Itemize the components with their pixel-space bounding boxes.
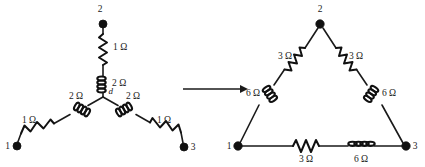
inductor-d1-2ohm: [73, 102, 91, 117]
delta-terminal-3-label: 3: [413, 141, 418, 151]
delta-terminal-1-dot: [234, 142, 242, 150]
inductor-12-6ohm: [262, 85, 278, 103]
wye-label-inductor-d3: 2 Ω: [126, 91, 140, 101]
transformation-arrow: [183, 85, 248, 93]
delta-terminal-2-dot: [316, 20, 324, 28]
delta-label-inductor-13: 6 Ω: [354, 154, 368, 164]
wye-terminal-2-dot: [99, 20, 107, 28]
delta-terminal-2-label: 2: [318, 4, 323, 14]
inductor-13-6ohm: [348, 142, 374, 146]
wye-terminal-1-label: 1: [5, 141, 10, 151]
wire-center-to-right-inductor: [103, 97, 118, 106]
wire-2-to-left-resistor: [305, 28, 318, 48]
wire-resistor-to-node1: [18, 134, 22, 144]
wire-right-resistor-to-inductor: [357, 70, 368, 86]
wye-network: 2 1 3 d 1 Ω 2 Ω 2 Ω 1 Ω 2 Ω 1 Ω: [5, 4, 196, 152]
wire-left-resistor-to-inductor: [274, 70, 285, 86]
wye-terminal-1-dot: [13, 142, 21, 150]
wire-resistor-to-node3: [181, 133, 183, 144]
resistor-13-3ohm: [293, 140, 319, 152]
wire-left-inductor-to-node1: [240, 105, 259, 143]
wire-center-to-left-inductor: [88, 97, 103, 106]
wye-terminal-3-dot: [180, 143, 188, 151]
inductor-d2-2ohm: [97, 77, 105, 93]
delta-label-resistor-12: 3 Ω: [278, 51, 292, 61]
wye-label-resistor-d2: 1 Ω: [113, 42, 127, 52]
delta-label-inductor-23: 6 Ω: [382, 88, 396, 98]
wire-left-inductor-to-resistor: [54, 115, 70, 124]
wye-label-inductor-d2: 2 Ω: [112, 78, 126, 88]
delta-terminal-1-label: 1: [227, 141, 232, 151]
circuit-canvas: 2 1 3 d 1 Ω 2 Ω 2 Ω 1 Ω 2 Ω 1 Ω: [0, 0, 425, 167]
inductor-23-6ohm: [363, 85, 379, 103]
wire-right-inductor-to-resistor: [136, 115, 150, 123]
resistor-d2-1ohm: [99, 34, 107, 65]
delta-network: 2 1 3 3 Ω 6 Ω 3 Ω 6 Ω 3 Ω 6 Ω: [227, 4, 418, 164]
wire-2-to-right-resistor: [323, 28, 336, 48]
delta-label-inductor-12: 6 Ω: [246, 88, 260, 98]
wye-terminal-3-label: 3: [191, 142, 196, 152]
wye-label-resistor-d1: 1 Ω: [22, 115, 36, 125]
inductor-d3-2ohm: [115, 102, 133, 117]
wye-label-resistor-d3: 1 Ω: [157, 115, 171, 125]
delta-terminal-3-dot: [402, 142, 410, 150]
wye-label-inductor-d1: 2 Ω: [69, 91, 83, 101]
delta-label-resistor-23: 3 Ω: [349, 51, 363, 61]
circuit-figure: 2 1 3 d 1 Ω 2 Ω 2 Ω 1 Ω 2 Ω 1 Ω: [0, 0, 425, 167]
wire-right-inductor-to-node3: [382, 105, 403, 143]
delta-label-resistor-13: 3 Ω: [299, 154, 313, 164]
wye-terminal-2-label: 2: [98, 4, 103, 14]
